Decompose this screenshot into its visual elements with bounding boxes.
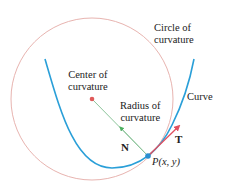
circle-of-curvature-label: Circle of curvature	[154, 22, 194, 46]
tangent-vector-label: T	[175, 133, 182, 145]
radius-of-curvature-label: Radius of curvature	[120, 100, 161, 124]
circle-label-line2: curvature	[154, 34, 194, 46]
center-of-curvature-dot	[90, 97, 95, 102]
point-p-dot	[145, 153, 151, 159]
radius-label-line2: curvature	[120, 112, 161, 124]
tangent-vector-arrow	[148, 127, 178, 156]
normal-vector-label: N	[121, 141, 129, 153]
center-label-line1: Center of	[68, 69, 108, 81]
center-label-line2: curvature	[68, 81, 108, 93]
center-of-curvature-label: Center of curvature	[68, 69, 108, 93]
circle-label-line1: Circle of	[154, 22, 194, 34]
curve-label: Curve	[187, 91, 213, 103]
radius-label-line1: Radius of	[120, 100, 161, 112]
point-label: P(x, y)	[152, 156, 180, 168]
